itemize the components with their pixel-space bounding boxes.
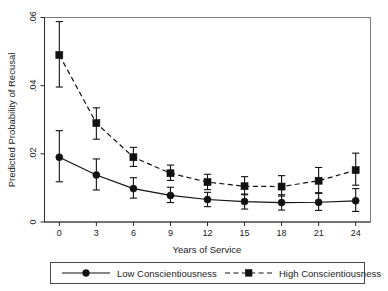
data-point-circle-marker — [352, 197, 359, 204]
x-tick-label: 6 — [131, 228, 136, 238]
x-tick-label: 12 — [202, 228, 212, 238]
chart-legend: Low Conscientiousness High Conscientious… — [51, 263, 382, 284]
x-tick-label: 15 — [240, 228, 250, 238]
data-point-square-marker — [167, 170, 174, 177]
series-line-2 — [59, 55, 355, 187]
data-point-square-marker — [352, 167, 359, 174]
y-axis-ticks — [41, 18, 45, 223]
data-point-circle-marker — [241, 198, 248, 205]
y-axis-tick-labels: 0.02.04.06 — [28, 11, 38, 224]
x-tick-label: 0 — [57, 228, 62, 238]
legend-square-marker-icon — [245, 270, 252, 277]
y-tick-label: 0 — [28, 219, 38, 224]
y-tick-label: .02 — [28, 148, 38, 161]
chart-figure: 0.02.04.06 03691215182124 Years of Servi… — [0, 0, 388, 291]
data-point-circle-marker — [204, 196, 211, 203]
x-tick-label: 18 — [277, 228, 287, 238]
y-axis-title: Predicted Probability of Recusal — [6, 53, 17, 188]
y-tick-label: .04 — [28, 79, 38, 92]
x-tick-label: 21 — [314, 228, 324, 238]
y-tick-label: .06 — [28, 11, 38, 24]
x-axis-title: Years of Service — [173, 244, 242, 255]
x-axis-tick-labels: 03691215182124 — [57, 228, 361, 238]
data-point-circle-marker — [167, 192, 174, 199]
data-point-circle-marker — [278, 199, 285, 206]
legend-label-low: Low Conscientiousness — [117, 268, 217, 279]
data-point-square-marker — [278, 183, 285, 190]
data-point-square-marker — [241, 183, 248, 190]
data-point-circle-marker — [93, 171, 100, 178]
series-markers — [56, 51, 359, 206]
data-point-circle-marker — [315, 199, 322, 206]
recusal-probability-line-chart: 0.02.04.06 03691215182124 Years of Servi… — [0, 0, 388, 291]
data-point-square-marker — [93, 120, 100, 127]
x-axis-ticks — [59, 222, 355, 226]
data-point-square-marker — [130, 154, 137, 161]
data-point-square-marker — [315, 177, 322, 184]
data-point-circle-marker — [56, 154, 63, 161]
x-tick-label: 3 — [94, 228, 99, 238]
legend-circle-marker-icon — [83, 270, 90, 277]
legend-label-high: High Conscientiousness — [279, 268, 381, 279]
data-point-square-marker — [204, 179, 211, 186]
x-tick-label: 24 — [351, 228, 361, 238]
data-point-square-marker — [56, 51, 63, 58]
data-point-circle-marker — [130, 185, 137, 192]
x-tick-label: 9 — [168, 228, 173, 238]
